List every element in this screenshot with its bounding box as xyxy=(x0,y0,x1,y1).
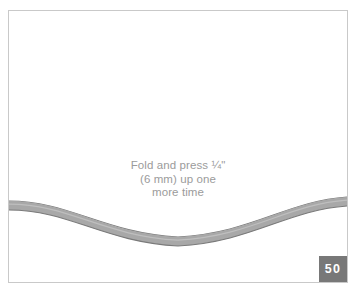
page-number-label: 50 xyxy=(325,262,341,276)
illustration-frame: Fold and press ¼" (6 mm) up one more tim… xyxy=(8,10,348,283)
caption-line-3: more time xyxy=(9,186,347,200)
caption-line-2: (6 mm) up one xyxy=(9,173,347,187)
caption-line-1: Fold and press ¼" xyxy=(9,159,347,173)
illustration-canvas: Fold and press ¼" (6 mm) up one more tim… xyxy=(9,11,347,282)
page-number-badge: 50 xyxy=(319,256,347,282)
hem-band-highlight xyxy=(9,200,347,240)
instruction-caption: Fold and press ¼" (6 mm) up one more tim… xyxy=(9,159,347,200)
hem-band-fill xyxy=(9,197,347,246)
page-root: Fold and press ¼" (6 mm) up one more tim… xyxy=(0,0,357,289)
curved-fabric-hem-illustration xyxy=(9,11,347,282)
